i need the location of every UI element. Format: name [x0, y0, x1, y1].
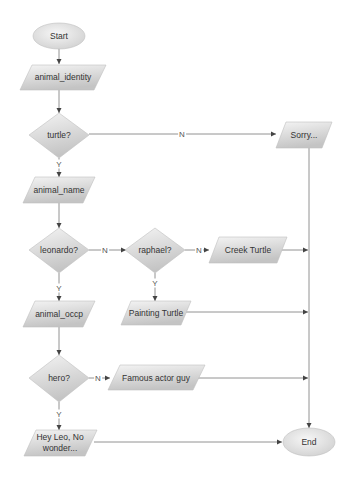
edge-label-leonardo-y: Y	[55, 284, 62, 293]
edge-label-leonardo-n: N	[101, 246, 109, 255]
turtle-label: turtle?	[47, 130, 71, 140]
hey-leo-label-line2: wonder...	[43, 443, 78, 453]
painting-turtle-label: Painting Turtle	[129, 308, 183, 318]
edge-label-hero-y: Y	[55, 410, 62, 419]
hey-leo-label-line1: Hey Leo, No	[36, 432, 83, 442]
start-label: Start	[50, 31, 68, 41]
raphael-label: raphael?	[138, 245, 171, 255]
hero-label: hero?	[48, 373, 70, 383]
edge-label-hero-n: N	[94, 374, 102, 383]
edge-label-turtle-n: N	[178, 130, 186, 139]
animal-occp-label: animal_occp	[35, 309, 83, 319]
sorry-label: Sorry...	[291, 130, 318, 140]
leonardo-label: leonardo?	[40, 245, 78, 255]
edge-label-turtle-y: Y	[55, 160, 62, 169]
edge-label-raphael-y: Y	[151, 279, 158, 288]
famous-actor-label: Famous actor guy	[122, 373, 190, 383]
animal-identity-label: animal_identity	[35, 72, 92, 82]
creek-turtle-label: Creek Turtle	[225, 245, 271, 255]
end-label: End	[301, 437, 316, 447]
edge-label-raphael-n: N	[195, 246, 203, 255]
animal-name-label: animal_name	[33, 185, 84, 195]
